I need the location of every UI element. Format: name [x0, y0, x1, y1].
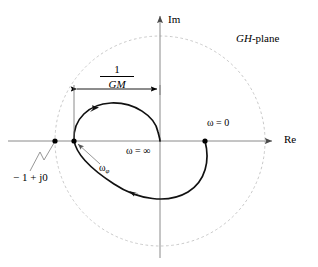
critical-point-label: − 1 + j0 — [13, 172, 48, 183]
gain-margin-label: 1 GM — [100, 64, 134, 90]
nyquist-plot-figure: GH-plane Re Im 1 GM ω = 0 ω = ∞ ωφ − 1 +… — [0, 0, 318, 267]
gh-plane-label-suffix: -plane — [252, 32, 279, 44]
omega-phase-symbol: ω — [99, 162, 106, 173]
omega-infinity-label: ω = ∞ — [126, 146, 150, 156]
real-axis-label: Re — [284, 134, 296, 145]
gain-margin-numerator: 1 — [100, 64, 134, 76]
omega-phi-leader-line — [78, 144, 100, 164]
omega-zero-label: ω = 0 — [207, 118, 229, 128]
critical-point-leader-line — [30, 143, 54, 171]
omega-zero-marker — [202, 138, 207, 143]
gh-plane-label: GH-plane — [236, 33, 279, 44]
gh-plane-label-italic: GH — [236, 32, 252, 44]
nyquist-locus-upper — [74, 103, 160, 141]
phase-crossover-marker — [71, 138, 76, 143]
fraction-bar — [100, 76, 134, 77]
imaginary-axis-label: Im — [168, 14, 180, 25]
omega-phase-subscript: φ — [106, 167, 110, 175]
gain-margin-denominator: GM — [100, 78, 134, 90]
omega-phase-label: ωφ — [99, 163, 109, 175]
critical-point-marker — [52, 138, 57, 143]
